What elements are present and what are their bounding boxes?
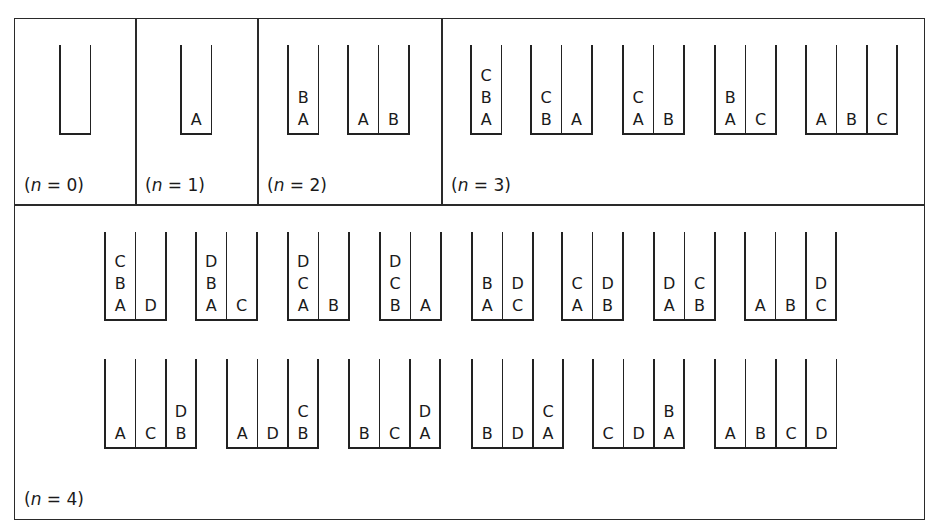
block-a: A (654, 296, 684, 316)
block-c: C (806, 296, 836, 316)
block-b: B (654, 402, 684, 422)
stack-column: BC (531, 45, 561, 135)
stack-column: AB (715, 45, 745, 135)
stack-column: ABC (105, 232, 135, 321)
block-b: B (745, 424, 775, 444)
block-a: A (227, 424, 257, 444)
stack-column: A (715, 359, 745, 449)
block-a: A (105, 296, 135, 316)
stack-config-n4-6: ACBD (562, 232, 623, 321)
label-value: = 0 (41, 175, 77, 195)
block-d: D (135, 296, 165, 316)
stack-column: B (836, 45, 866, 135)
block-a: A (623, 110, 653, 130)
stack-column: AB (654, 359, 684, 449)
stack-column: D (623, 359, 653, 449)
stack-config-n4-5: ABCD (472, 232, 533, 321)
block-a: A (472, 296, 502, 316)
block-d: D (196, 252, 226, 272)
stack-config-n4-12: BDAC (472, 359, 563, 449)
block-b: B (472, 274, 502, 294)
block-c: C (593, 424, 623, 444)
block-d: D (288, 252, 318, 272)
stack-config-n3-5: ABC (806, 45, 897, 135)
block-b: B (318, 296, 348, 316)
stack-column: B (775, 232, 805, 321)
block-c: C (562, 274, 592, 294)
stack-column: A (227, 359, 257, 449)
stack-column: A (348, 45, 378, 135)
stack-column: C (745, 45, 775, 135)
block-d: D (166, 402, 196, 422)
block-a: A (745, 296, 775, 316)
block-c: C (776, 424, 806, 444)
stack-column: BC (288, 359, 318, 449)
block-c: C (288, 274, 318, 294)
block-c: C (226, 296, 256, 316)
block-a: A (806, 110, 836, 130)
panel-divider-n1-n2 (257, 18, 259, 205)
label-variable: n (31, 489, 42, 509)
panel-label-n0: (n = 0) (24, 175, 84, 195)
panel-divider-n0-n1 (135, 18, 137, 205)
block-c: C (135, 424, 165, 444)
block-a: A (105, 424, 135, 444)
block-c: C (288, 402, 318, 422)
stack-column: B (745, 359, 775, 449)
block-a: A (288, 110, 318, 130)
block-d: D (592, 274, 622, 294)
stack-column: D (806, 359, 836, 449)
stack-column: AB (288, 45, 318, 135)
stack-config-n4-7: ADBC (654, 232, 715, 321)
stack-column: BCD (380, 232, 410, 321)
block-c: C (867, 110, 897, 130)
stack-column: A (806, 45, 836, 135)
label-value: = 3 (468, 175, 504, 195)
stack-config-n4-2: ABDC (196, 232, 257, 321)
stack-config-n3-2: BCA (531, 45, 592, 135)
stack-column: A (561, 45, 591, 135)
stack-column: AC (623, 45, 653, 135)
label-value: = 1 (162, 175, 198, 195)
stack-config-n1-1: A (181, 45, 211, 135)
block-b: B (472, 424, 502, 444)
stack-config-n4-11: BCAD (349, 359, 440, 449)
stack-column: A (410, 232, 440, 321)
block-b: B (105, 274, 135, 294)
label-variable: n (274, 175, 285, 195)
block-b: B (653, 110, 683, 130)
block-b: B (196, 274, 226, 294)
block-b: B (378, 110, 408, 130)
stack-column: D (135, 232, 165, 321)
block-a: A (715, 424, 745, 444)
block-c: C (380, 274, 410, 294)
block-d: D (806, 424, 836, 444)
stack-config-n4-3: ACDB (288, 232, 349, 321)
stack-config-n4-1: ABCD (105, 232, 166, 321)
block-b: B (775, 296, 805, 316)
stack-config-n3-1: ABC (471, 45, 501, 135)
block-a: A (561, 110, 591, 130)
stack-column: B (472, 359, 502, 449)
stack-column: B (378, 45, 408, 135)
stack-column: BD (592, 232, 622, 321)
stack-column: B (318, 232, 348, 321)
panel-divider-n2-n3 (441, 18, 443, 205)
block-a: A (471, 110, 501, 130)
block-a: A (715, 110, 745, 130)
stack-config-n0-1 (60, 45, 90, 135)
panel-label-n1: (n = 1) (145, 175, 205, 195)
panel-label-n3: (n = 3) (451, 175, 511, 195)
stack-config-n2-1: AB (288, 45, 318, 135)
block-c: C (684, 274, 714, 294)
stack-column: D (502, 359, 532, 449)
stack-config-n3-3: ACB (623, 45, 684, 135)
block-c: C (379, 424, 409, 444)
label-variable: n (458, 175, 469, 195)
stack-column: D (257, 359, 287, 449)
block-b: B (531, 110, 561, 130)
block-b: B (349, 424, 379, 444)
stack-column: B (349, 359, 379, 449)
stack-column: C (593, 359, 623, 449)
stack-column: A (745, 232, 775, 321)
